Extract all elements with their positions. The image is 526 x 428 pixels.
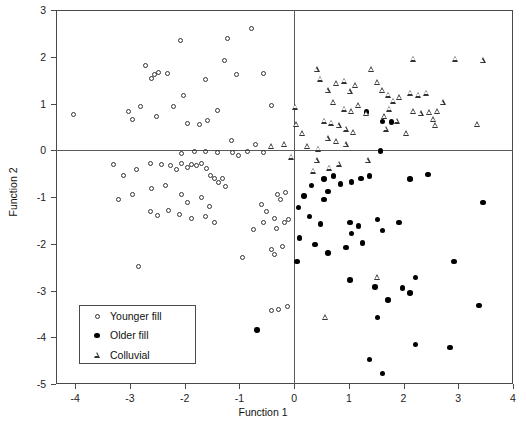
data-point-colluvial <box>383 126 389 132</box>
data-point-colluvial <box>350 129 356 135</box>
data-point-colluvial <box>293 121 299 127</box>
data-point-younger-fill <box>165 71 170 76</box>
legend-label: Younger fill <box>110 310 162 322</box>
x-tick-mark <box>458 384 459 389</box>
data-point-colluvial <box>343 126 349 132</box>
y-tick-label: -1 <box>22 191 46 203</box>
y-tick-label: -2 <box>22 238 46 250</box>
data-point-younger-fill <box>240 255 245 260</box>
legend-item: Younger fill <box>80 306 195 326</box>
data-point-colluvial <box>440 99 446 105</box>
data-point-colluvial <box>480 57 486 63</box>
data-point-colluvial <box>410 108 416 114</box>
y-tick-mark <box>51 244 56 245</box>
data-point-older-fill <box>367 173 373 179</box>
legend-marker-open-triangle-icon <box>80 345 110 365</box>
legend-label: Older fill <box>110 329 149 341</box>
y-tick-mark <box>51 337 56 338</box>
data-point-older-fill <box>476 303 482 309</box>
x-tick-mark <box>404 384 405 389</box>
data-point-younger-fill <box>154 114 159 119</box>
x-tick-label: 3 <box>455 392 461 404</box>
legend-marker-open-circle-icon <box>80 306 110 326</box>
data-point-older-fill <box>338 181 344 187</box>
data-point-younger-fill <box>203 77 208 82</box>
data-point-younger-fill <box>251 227 256 232</box>
y-axis-title: Function 2 <box>7 152 19 232</box>
data-point-older-fill <box>331 173 337 179</box>
data-point-younger-fill <box>126 109 131 114</box>
x-tick-label: 4 <box>510 392 516 404</box>
data-point-older-fill <box>325 250 331 256</box>
y-tick-mark <box>51 291 56 292</box>
y-tick-mark <box>51 197 56 198</box>
data-point-colluvial <box>288 154 294 160</box>
data-point-colluvial <box>348 108 354 114</box>
data-point-younger-fill <box>148 161 153 166</box>
data-point-younger-fill <box>205 118 210 123</box>
data-point-older-fill <box>347 220 353 226</box>
data-point-older-fill <box>349 179 355 185</box>
data-point-colluvial <box>314 157 320 163</box>
legend-marker-filled-circle-icon <box>80 326 110 346</box>
data-point-colluvial <box>396 94 402 100</box>
reference-line-y-0 <box>56 150 513 151</box>
data-point-younger-fill <box>280 244 285 249</box>
data-point-younger-fill <box>185 121 190 126</box>
data-point-colluvial <box>355 102 361 108</box>
data-point-colluvial <box>292 104 298 110</box>
data-point-colluvial <box>394 118 400 124</box>
data-point-older-fill <box>372 284 378 290</box>
data-point-colluvial <box>326 165 332 171</box>
data-point-older-fill <box>347 277 353 283</box>
data-point-younger-fill <box>199 195 204 200</box>
data-point-younger-fill <box>171 104 176 109</box>
data-point-younger-fill <box>269 308 274 313</box>
data-point-colluvial <box>268 143 274 149</box>
data-point-colluvial <box>333 138 339 144</box>
data-point-younger-fill <box>276 307 281 312</box>
x-tick-label: 2 <box>401 392 407 404</box>
y-tick-mark <box>51 57 56 58</box>
data-point-older-fill <box>321 176 327 182</box>
scatter-plot-figure: -4-3-2-1012343210-1-2-3-4-5 Function 1 F… <box>0 0 526 428</box>
y-tick-label: 3 <box>22 4 46 16</box>
data-point-colluvial <box>336 122 342 128</box>
data-point-older-fill <box>325 189 331 195</box>
data-point-younger-fill <box>155 213 160 218</box>
data-point-older-fill <box>400 285 406 291</box>
data-point-younger-fill <box>143 63 148 68</box>
x-tick-mark <box>239 384 240 389</box>
data-point-colluvial <box>343 141 349 147</box>
data-point-older-fill <box>360 240 366 246</box>
data-point-younger-fill <box>185 200 190 205</box>
y-tick-mark <box>51 10 56 11</box>
data-point-younger-fill <box>215 108 220 113</box>
legend-item: Colluvial <box>80 345 195 365</box>
open-circle-icon <box>95 314 100 319</box>
data-point-colluvial <box>341 106 347 112</box>
legend-label: Colluvial <box>110 349 150 361</box>
x-tick-mark <box>349 384 350 389</box>
data-point-younger-fill <box>269 103 274 108</box>
y-tick-mark <box>51 104 56 105</box>
data-point-colluvial <box>336 161 342 167</box>
data-point-colluvial <box>325 135 331 141</box>
data-point-older-fill <box>294 259 300 265</box>
data-point-older-fill <box>407 290 413 296</box>
x-tick-mark <box>75 384 76 389</box>
data-point-younger-fill <box>199 161 204 166</box>
data-point-colluvial <box>299 130 305 136</box>
legend: Younger fillOlder fillColluvial <box>79 305 196 364</box>
x-tick-mark <box>130 384 131 389</box>
data-point-older-fill <box>301 193 307 199</box>
data-point-older-fill <box>447 345 453 351</box>
data-point-colluvial <box>310 168 316 174</box>
data-point-colluvial <box>415 92 421 98</box>
data-point-colluvial <box>432 122 438 128</box>
data-point-older-fill <box>480 200 486 206</box>
data-point-younger-fill <box>189 162 194 167</box>
x-tick-mark <box>513 384 514 389</box>
data-point-older-fill <box>312 242 318 248</box>
x-tick-label: -4 <box>70 392 79 404</box>
